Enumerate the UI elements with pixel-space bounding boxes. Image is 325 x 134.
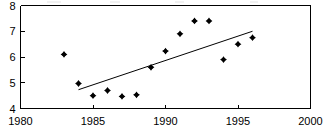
data-point-core-1995 (236, 42, 240, 46)
data-point-core-1984 (77, 82, 81, 86)
data-point-core-1986 (106, 89, 110, 93)
data-point-core-1996 (251, 36, 255, 40)
trend-line (79, 31, 253, 89)
x-tick-label-2000: 2000 (298, 115, 322, 127)
data-point-core-1985 (91, 94, 95, 98)
data-point-core-1983 (62, 53, 66, 57)
scatter-chart: 4567819801985199019952000 (0, 0, 325, 134)
data-point-core-1987 (120, 94, 124, 98)
data-point-core-1994 (222, 58, 226, 62)
data-point-core-1989 (149, 65, 153, 69)
data-point-core-1988 (135, 93, 139, 97)
x-tick-label-1990: 1990 (153, 115, 177, 127)
top-edge-artifact-3 (250, 1, 258, 3)
top-edge-artifact-1 (110, 1, 120, 3)
y-tick-label-7: 7 (9, 25, 15, 37)
data-point-core-1990 (164, 49, 168, 53)
x-tick-label-1985: 1985 (81, 115, 105, 127)
y-tick-label-6: 6 (9, 51, 15, 63)
x-tick-label-1980: 1980 (8, 115, 32, 127)
data-point-core-1993 (207, 19, 211, 23)
data-point-core-1992 (193, 19, 197, 23)
y-tick-label-4: 4 (9, 103, 15, 115)
x-tick-label-1995: 1995 (226, 115, 250, 127)
top-edge-artifact-2 (175, 1, 184, 3)
y-tick-label-5: 5 (9, 77, 15, 89)
top-edge-artifact-0 (47, 1, 61, 3)
chart-figure: 4567819801985199019952000 (0, 0, 325, 134)
data-point-core-1991 (178, 32, 182, 36)
y-tick-label-8: 8 (9, 0, 15, 12)
chart-screenshot: 4567819801985199019952000 (0, 0, 325, 134)
